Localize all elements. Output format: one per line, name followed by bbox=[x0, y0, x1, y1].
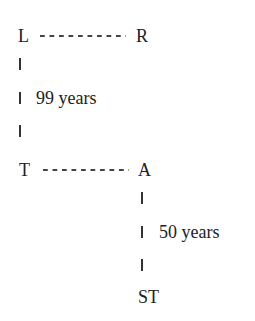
vertical-link-l-t-segment-1 bbox=[19, 58, 21, 70]
vertical-link-a-st-segment-2 bbox=[141, 226, 143, 238]
node-l: L bbox=[18, 26, 29, 46]
duration-label-99-years: 99 years bbox=[36, 88, 96, 108]
vertical-link-a-st-segment-3 bbox=[141, 259, 143, 271]
vertical-link-l-t-segment-2 bbox=[19, 92, 21, 104]
node-t: T bbox=[19, 160, 30, 180]
dashed-link-l-r bbox=[40, 35, 126, 37]
vertical-link-a-st-segment-1 bbox=[141, 192, 143, 204]
dashed-link-t-a bbox=[43, 169, 129, 171]
node-r: R bbox=[136, 26, 148, 46]
node-a: A bbox=[138, 160, 151, 180]
duration-label-50-years: 50 years bbox=[159, 222, 219, 242]
node-st: ST bbox=[138, 287, 159, 307]
vertical-link-l-t-segment-3 bbox=[19, 125, 21, 137]
